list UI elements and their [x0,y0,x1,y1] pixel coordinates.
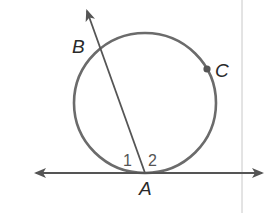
diagram-svg: B C A 1 2 [0,0,278,213]
label-point-c: C [215,60,229,81]
label-point-a: A [138,178,152,199]
circle [74,33,216,173]
label-angle-1: 1 [123,152,132,169]
label-angle-2: 2 [148,152,157,169]
point-c-dot [203,65,210,72]
geometry-diagram: B C A 1 2 [0,0,278,213]
label-point-b: B [72,36,85,57]
secant-ray [87,11,145,173]
